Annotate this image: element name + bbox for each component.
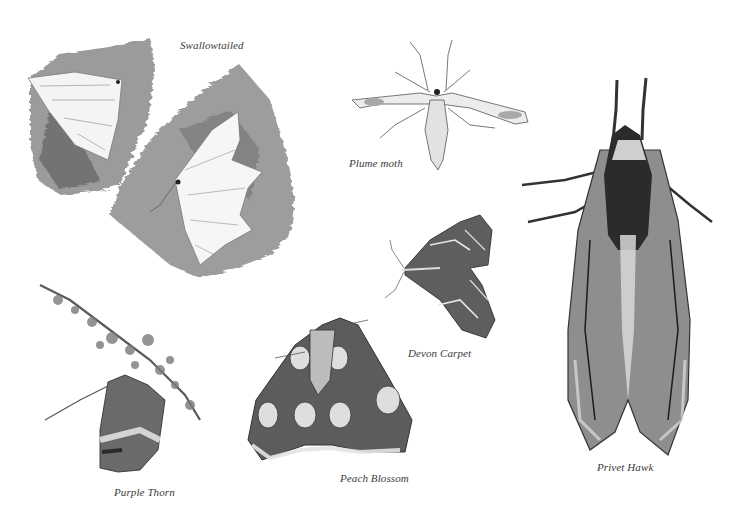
caption-plume-moth: Plume moth bbox=[349, 157, 403, 169]
plume-moth-illustration bbox=[352, 40, 528, 170]
caption-peach-blossom: Peach Blossom bbox=[340, 472, 409, 484]
privet-hawk-illustration bbox=[522, 78, 712, 455]
caption-swallowtailed: Swallowtailed bbox=[180, 39, 244, 51]
illustration-artwork bbox=[0, 0, 745, 512]
moth-illustration-plate: Swallowtailed Plume moth Privet Hawk Dev… bbox=[0, 0, 745, 512]
caption-privet-hawk: Privet Hawk bbox=[597, 461, 653, 473]
devon-carpet-illustration bbox=[385, 215, 495, 338]
caption-devon-carpet: Devon Carpet bbox=[408, 347, 471, 359]
caption-purple-thorn: Purple Thorn bbox=[114, 486, 175, 498]
swallowtailed-illustration bbox=[28, 38, 295, 278]
peach-blossom-illustration bbox=[248, 318, 412, 460]
purple-thorn-illustration bbox=[40, 285, 200, 472]
